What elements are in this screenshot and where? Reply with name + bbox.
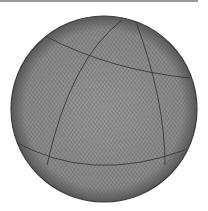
sphere-body: [0, 0, 208, 211]
sphere-figure: [0, 0, 208, 211]
mesh-grid: [0, 0, 208, 211]
